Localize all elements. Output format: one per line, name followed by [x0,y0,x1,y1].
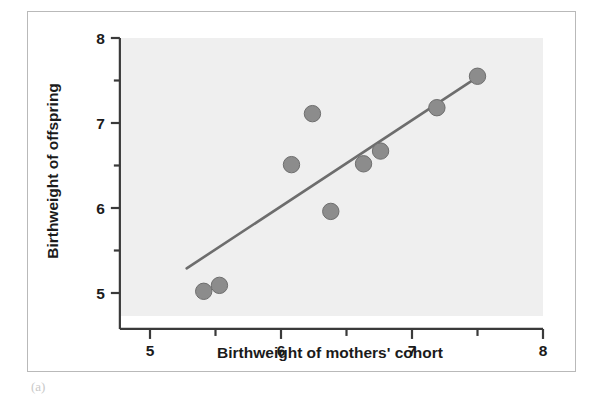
y-tick-label: 8 [96,30,105,47]
scatter-plot: 5678 5678 Birthweight of mothers' cohort… [0,0,600,402]
y-tick-label: 5 [96,285,105,302]
y-tick-label: 7 [96,115,105,132]
x-tick-label: 8 [539,342,548,359]
scatter-point [196,283,212,299]
x-tick-label: 5 [146,342,155,359]
scatter-point [283,156,299,172]
y-axis-label: Birthweight of offspring [44,83,61,259]
y-tick-label: 6 [96,200,105,217]
scatter-point [355,156,371,172]
x-axis-label: Birthweight of mothers' cohort [217,344,443,361]
scatter-point [304,105,320,121]
scatter-point [429,100,445,116]
scatter-point [323,203,339,219]
y-axis: 5678 [96,30,120,329]
scatter-point [372,143,388,159]
figure-container: (a) 5678 5678 Birthweight of mothers' co… [0,0,600,402]
scatter-point [469,68,485,84]
scatter-point [211,277,227,293]
